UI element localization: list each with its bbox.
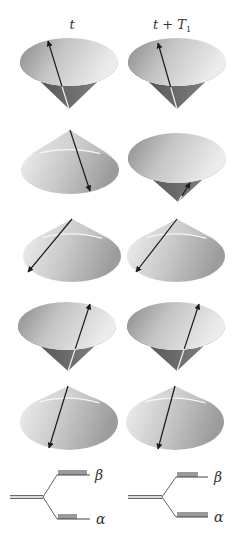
alpha-population-bar	[177, 512, 208, 517]
energy-level-diagrams: βαβα	[10, 467, 224, 527]
splitting-line	[162, 477, 176, 497]
precessing-spin-cones-figure: t t + T1 βαβα	[0, 0, 235, 540]
splitting-line	[43, 475, 57, 497]
cone-base-ellipse	[126, 394, 224, 450]
beta-state-label: β	[94, 467, 103, 483]
cone-top-ellipse	[128, 38, 226, 86]
column-header-subscript: 1	[186, 25, 191, 34]
spin-cone-row2-right	[128, 133, 226, 202]
beta-population-bar	[177, 472, 198, 477]
spin-cone-row2-left	[21, 130, 119, 194]
cones-grid	[18, 38, 226, 450]
cone-top-ellipse	[128, 133, 226, 183]
alpha-state-label: α	[96, 511, 106, 527]
alpha-state-label: α	[214, 509, 224, 525]
energy-diagram-right: βα	[128, 469, 224, 525]
cone-top-ellipse	[20, 38, 118, 86]
splitting-line	[162, 497, 176, 517]
cone-top-ellipse	[127, 302, 225, 350]
spin-cone-row1-left	[20, 38, 118, 109]
spin-cone-row1-right	[128, 38, 226, 109]
spin-cone-row5-right	[126, 386, 224, 450]
column-header-t-plus-T1: t + T1	[153, 17, 191, 34]
alpha-population-bar	[58, 514, 77, 519]
energy-diagram-left: βα	[10, 467, 106, 527]
splitting-line	[43, 497, 57, 519]
beta-state-label: β	[213, 469, 222, 485]
spin-cone-row3-right	[127, 219, 225, 282]
spin-cone-row4-right	[127, 302, 225, 371]
cone-top-ellipse	[18, 302, 116, 350]
spin-cone-row5-left	[20, 386, 118, 450]
spin-cone-row3-left	[23, 219, 121, 282]
spin-cone-row4-left	[18, 302, 116, 371]
column-header-t: t	[69, 17, 75, 32]
beta-population-bar	[58, 470, 87, 475]
column-header-main: t + T	[153, 17, 187, 32]
